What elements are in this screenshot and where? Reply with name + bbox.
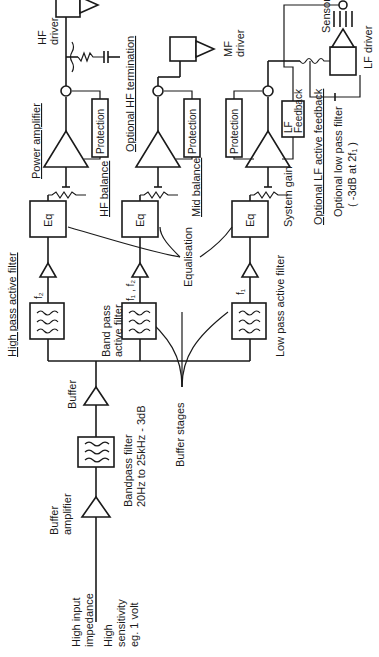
mf-driver-box [170,37,196,61]
mf-driver-horn-icon [196,41,214,57]
lf-driver-label: LF driver [362,25,374,69]
hf-termination-label: Optional HF termination [124,36,136,152]
buffer-icon [84,387,108,405]
mf-protection-label: Protection [187,109,198,154]
lf-buffer-icon [242,263,258,277]
hf-driver-label-2: driver [48,17,60,45]
lf-protection-label: Protection [229,109,240,154]
mid-balance-label: Mid balance [190,158,202,217]
mf-eq-label: Eq [134,214,146,227]
hf-eq-label: Eq [42,214,54,227]
mf-driver-label-2: driver [234,29,246,57]
lf-driver-cone-icon [332,29,354,47]
hf-driver-box [56,0,80,17]
bandpass-filter-label: Bandpass filter [122,434,134,507]
power-amplifier-label: Power amplifier [30,103,42,179]
buffer-stages-label: Buffer stages [174,402,186,467]
lf-driver-box [330,47,356,75]
hf-filter-label: High pass active filter [6,252,18,357]
buffer-label: Buffer [66,380,78,409]
lf-inductor-icon [300,59,330,64]
buffer-amplifier-icon [82,497,110,517]
hf-driver-label: HF [36,30,48,45]
mf-freq-label: f₁ , f₂ [125,280,136,301]
lowpass-note: Optional low pass filter [332,106,344,217]
input-sensitivity-label-3: eg. 1 volt [128,602,140,647]
system-gain-label: System gain [282,166,294,227]
buffer-amplifier-label-2: amplifier [61,493,73,535]
input-section: High input impedance High sensitivity eg… [48,312,250,647]
lf-feedback-note: Optional LF active feedback [312,88,324,225]
sensor-label: Sensor [320,0,332,33]
input-impedance-label-2: impedance [83,593,95,647]
lf-feedback-label-2: Feedback [293,88,304,133]
mf-fuse-icon [153,86,163,96]
hf-driver-horn-icon [80,0,98,13]
lf-fuse-icon [263,86,273,96]
hf-balance-pot-icon[interactable] [48,192,86,198]
bandpass-filter-range: 20Hz to 25kHz - 3dB [135,406,147,508]
equalisation-label: Equalisation [182,227,194,287]
mid-balance-pot-icon[interactable] [140,192,178,198]
hf-protection-label: Protection [95,109,106,154]
hf-power-amplifier-icon [44,131,88,167]
hf-buffer-icon [40,263,56,277]
hf-filter-box [30,303,64,339]
lf-channel: Eq Protection LF Feedback Lo [226,0,374,361]
lf-filter-box [232,303,266,339]
lf-filter-label: Low pass active filter [274,255,286,357]
lf-freq-label: f₁ [235,288,246,295]
block-diagram: High input impedance High sensitivity eg… [0,0,379,657]
input-sensitivity-label-2: sensitivity [115,599,127,647]
input-sensitivity-label: High [102,624,114,647]
mf-channel: Eq Protection Band pass active filter f₁… [100,29,246,361]
mf-filter-label-2: active filter [112,304,124,357]
lowpass-note-2: ( -3dB at 2f₁ ) [346,142,358,207]
lf-eq-label: Eq [244,214,256,227]
mf-filter-label: Band pass [100,305,112,357]
hf-fuse-icon [61,86,71,96]
mf-filter-box [122,303,156,339]
input-impedance-label: High input [70,597,82,647]
mf-power-amplifier-icon [136,131,180,167]
mf-driver-label: MF [222,41,234,57]
hf-balance-label: HF balance [98,161,110,217]
buffer-amplifier-label: Buffer [48,506,60,535]
hf-freq-label: f₂ [33,292,44,299]
sensor-icon [339,1,347,9]
mf-buffer-icon [132,263,148,277]
